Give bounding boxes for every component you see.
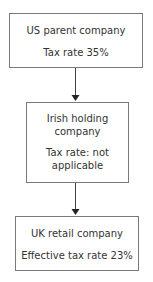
node-tax-rate: Tax rate 35% [10,46,142,59]
node-title: US parent company [10,24,142,37]
node-tax-rate-line1: Tax rate: not [27,146,128,159]
node-tax-rate: Effective tax rate 23% [16,249,138,262]
node-title-line2: company [27,125,128,138]
node-tax-rate-line2: applicable [27,159,128,172]
node-us-parent-company: US parent company Tax rate 35% [9,13,143,68]
arrow-down-icon [72,95,80,101]
node-uk-retail-company: UK retail company Effective tax rate 23% [15,216,139,271]
node-title-line1: Irish holding [27,112,128,125]
node-irish-holding-company: Irish holding company Tax rate: not appl… [26,102,129,183]
arrow-down-icon [72,209,80,215]
node-title: UK retail company [16,227,138,240]
